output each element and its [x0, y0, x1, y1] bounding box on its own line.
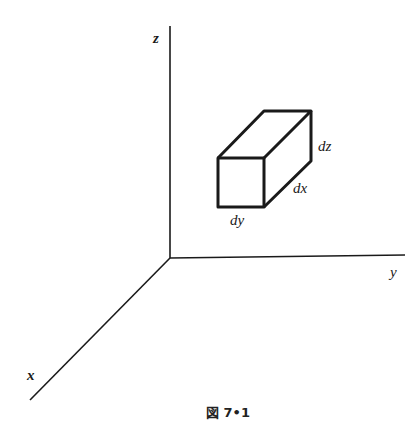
- box-top-face: [218, 111, 311, 158]
- y-axis-label: y: [388, 264, 397, 280]
- dx-label: dx: [293, 180, 308, 196]
- z-axis-label: z: [152, 30, 159, 46]
- x-axis: [30, 258, 170, 400]
- box-front-face: [218, 158, 264, 207]
- x-axis-label: x: [26, 367, 35, 383]
- y-axis: [170, 255, 405, 258]
- figure-caption: 図 7•1: [206, 405, 250, 420]
- coordinate-diagram: z y x dz dx dy 図 7•1: [0, 0, 420, 434]
- dy-label: dy: [230, 212, 245, 228]
- dz-label: dz: [318, 138, 332, 154]
